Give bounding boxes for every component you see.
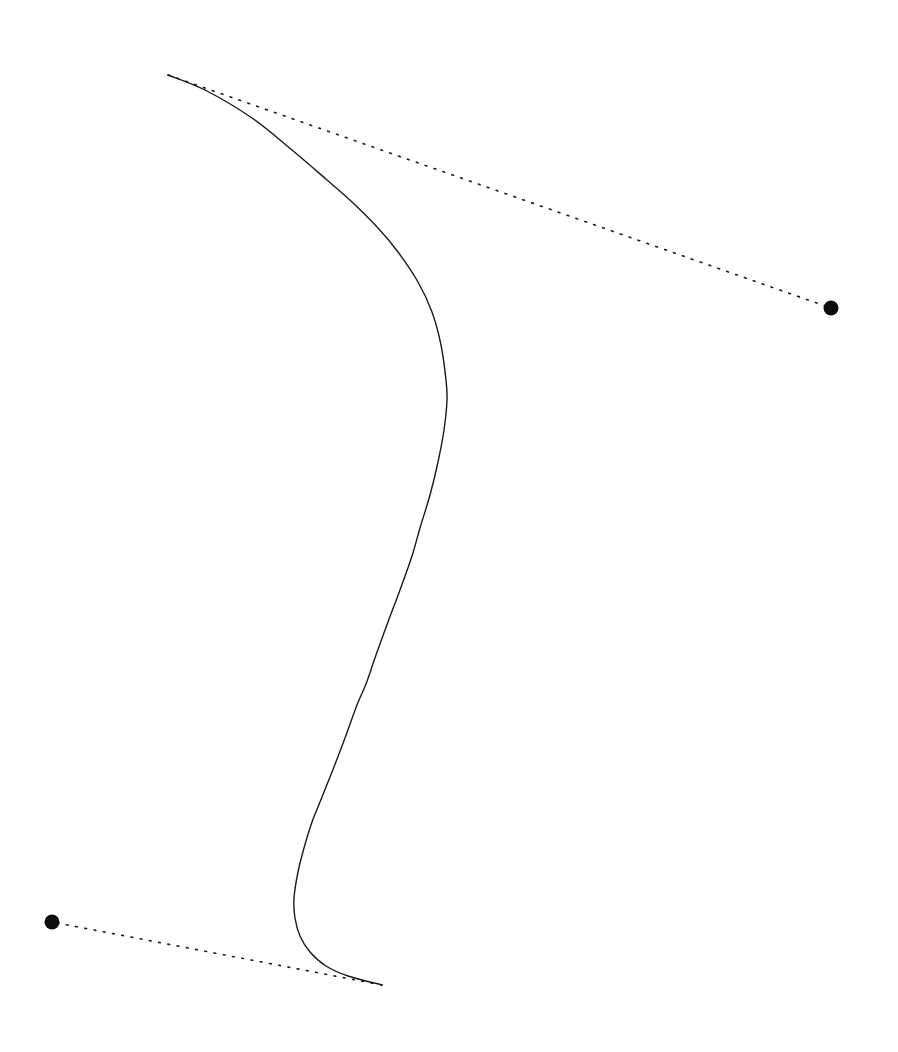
- handle-lower-left-dot[interactable]: [45, 915, 60, 930]
- handle-upper-right-dot[interactable]: [824, 301, 839, 316]
- figure-background: [0, 0, 898, 1052]
- curve-diagram-svg: [0, 0, 898, 1052]
- figure-canvas: [0, 0, 898, 1052]
